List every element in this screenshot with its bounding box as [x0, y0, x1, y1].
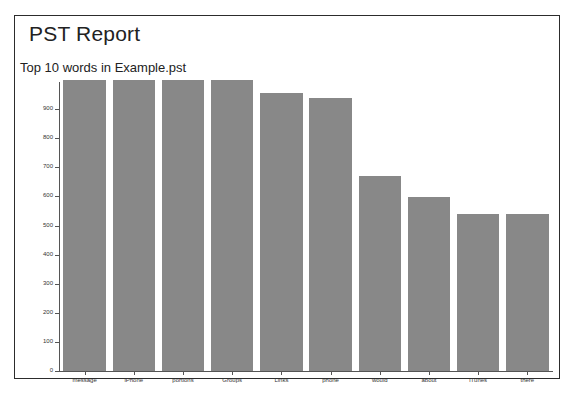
bar-rect[interactable] [260, 93, 302, 371]
x-axis-tick-mark [380, 371, 381, 375]
y-axis-tick-label: 200 [43, 308, 53, 316]
y-axis-tick: 300 [20, 284, 60, 285]
y-axis-tick: 100 [20, 342, 60, 343]
y-axis-tick-label: 800 [43, 133, 53, 141]
bar-item[interactable]: about [408, 80, 450, 371]
x-axis-tick-mark [85, 371, 86, 375]
x-axis-tick-mark [134, 371, 135, 375]
x-axis-tick-mark [183, 371, 184, 375]
bar-item[interactable]: Links [260, 80, 302, 371]
bar-item[interactable]: iTunes [457, 80, 499, 371]
y-axis-tick: 800 [20, 138, 60, 139]
x-axis-tick-mark [281, 371, 282, 375]
bar-rect[interactable] [506, 214, 548, 371]
bar-rect[interactable] [408, 197, 450, 371]
bar-rect[interactable] [113, 80, 155, 371]
bar-item[interactable]: portions [162, 80, 204, 371]
y-axis-tick: 0 [20, 371, 60, 372]
y-axis-tick: 200 [20, 313, 60, 314]
report-panel: PST Report Top 10 words in Example.pst 0… [14, 15, 560, 379]
bar-series: messageiPhoneportionsGroupsLinksphonewou… [60, 80, 552, 371]
bar-rect[interactable] [457, 214, 499, 371]
y-axis-tick-label: 500 [43, 221, 53, 229]
y-axis-tick-label: 100 [43, 337, 53, 345]
bar-item[interactable]: phone [309, 80, 351, 371]
y-axis-tick-mark [55, 371, 60, 372]
bar-rect[interactable] [211, 80, 253, 371]
y-axis-tick: 700 [20, 167, 60, 168]
y-axis-tick-label: 700 [43, 162, 53, 170]
y-axis-tick-label: 600 [43, 191, 53, 199]
y-axis-tick-label: 300 [43, 279, 53, 287]
page-title: PST Report [29, 22, 140, 46]
bar-item[interactable]: message [63, 80, 105, 371]
x-axis-tick-mark [331, 371, 332, 375]
y-axis-tick: 600 [20, 196, 60, 197]
y-axis-tick-label: 0 [50, 366, 53, 374]
x-axis-tick-label: there [496, 376, 558, 384]
bar-item[interactable]: Groups [211, 80, 253, 371]
x-axis-tick-mark [429, 371, 430, 375]
bar-item[interactable]: would [359, 80, 401, 371]
bar-item[interactable]: iPhone [113, 80, 155, 371]
x-axis-tick-mark [478, 371, 479, 375]
bar-rect[interactable] [63, 80, 105, 371]
chart-subtitle: Top 10 words in Example.pst [20, 60, 186, 75]
bar-chart: 0100200300400500600700800900 messageiPho… [20, 80, 556, 376]
y-axis-tick-label: 400 [43, 250, 53, 258]
x-axis-tick-mark [527, 371, 528, 375]
y-axis-tick: 400 [20, 255, 60, 256]
y-axis-tick: 500 [20, 226, 60, 227]
bar-rect[interactable] [309, 98, 351, 371]
bar-item[interactable]: there [506, 80, 548, 371]
bar-rect[interactable] [162, 80, 204, 371]
y-axis-tick-label: 900 [43, 104, 53, 112]
bar-rect[interactable] [359, 176, 401, 371]
x-axis-tick-mark [232, 371, 233, 375]
y-axis-tick: 900 [20, 109, 60, 110]
